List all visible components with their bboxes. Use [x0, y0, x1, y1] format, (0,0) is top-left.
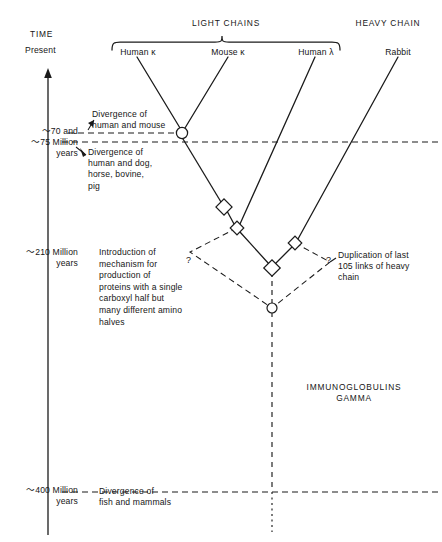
annotation-divergence-human-dog: Divergence of human and dog, horse, bovi…	[88, 147, 152, 192]
annotation-duplication-heavy-chain: Duplication of last 105 links of heavy c…	[338, 250, 410, 284]
node-ancestral-gene	[267, 303, 277, 313]
group-header-heavy-chain: HEAVY CHAIN	[336, 18, 440, 29]
time-label-400m-years: years	[2, 496, 78, 507]
annotation-divergence-fish-mammals: Divergence of fish and mammals	[99, 486, 171, 508]
annotation-immunoglobulins-gamma: IMMUNOGLOBULINS GAMMA	[286, 382, 422, 404]
question-mark-left: ?	[186, 255, 191, 265]
tree-branches-solid	[137, 57, 398, 264]
time-label-70m-line1: ～70 and	[6, 126, 78, 137]
time-label-400m-line1: ～400 Million	[2, 485, 78, 496]
taxon-label-mouse-kappa: Mouse κ	[197, 47, 259, 58]
time-label-70m-years: years	[6, 148, 78, 159]
time-label-210m-line1: ～210 Million	[2, 247, 78, 258]
time-axis-title: TIME	[30, 29, 53, 40]
taxon-label-human-lambda: Human λ	[284, 47, 348, 58]
taxon-label-human-kappa: Human κ	[106, 47, 170, 58]
present-label: Present	[25, 45, 56, 56]
time-label-75m-line2: ～75 Million	[6, 137, 78, 148]
node-divergence-human-mouse	[176, 127, 187, 138]
group-header-light-chains: LIGHT CHAINS	[156, 18, 296, 29]
taxon-label-rabbit: Rabbit	[370, 47, 426, 58]
node-heavy-chain-duplication	[288, 236, 302, 250]
question-mark-right: ?	[326, 255, 331, 265]
annotation-divergence-human-mouse: Divergence of human and mouse	[92, 109, 165, 131]
node-light-heavy-root	[264, 260, 280, 276]
time-label-210m-years: years	[2, 258, 78, 269]
node-light-chain-branchpoint	[230, 221, 244, 235]
node-kappa-lambda-divergence	[216, 199, 232, 215]
annotation-introduction-mechanism: Introduction of mechanism for production…	[99, 247, 183, 328]
uncertainty-polygon	[190, 228, 330, 308]
evolution-diagram-figure: TIME Present LIGHT CHAINS HEAVY CHAIN Hu…	[0, 0, 442, 542]
